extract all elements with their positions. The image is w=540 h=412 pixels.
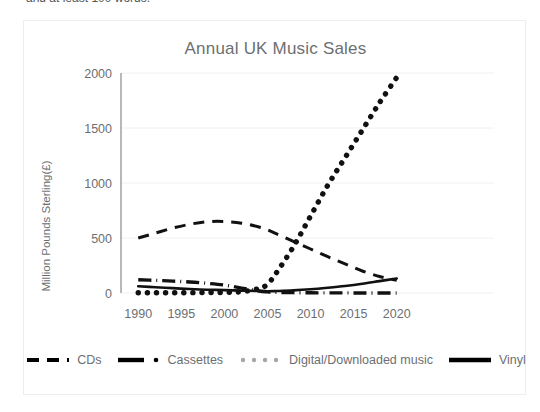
- series-line-cds: [138, 221, 397, 280]
- dashed-line-icon: [25, 355, 71, 365]
- legend-item-label: Digital/Downloaded music: [289, 353, 433, 367]
- y-tick-label: 2000: [84, 67, 112, 81]
- chart-legend: CDsCassettesDigital/Downloaded musicViny…: [24, 353, 527, 367]
- page-cut-text: and at least 100 words.: [26, 0, 150, 5]
- solid-line-icon: [447, 355, 493, 365]
- y-tick-label: 500: [91, 232, 112, 246]
- chart-plot-area: Million Pounds Sterling(£) 0500100015002…: [24, 21, 527, 396]
- legend-item-label: Cassettes: [168, 353, 224, 367]
- y-axis-title-text: Million Pounds Sterling(£): [40, 160, 52, 291]
- x-tick-label: 2010: [297, 307, 325, 321]
- line-chart-svg: Million Pounds Sterling(£) 0500100015002…: [24, 21, 527, 396]
- y-axis-title: Million Pounds Sterling(£): [40, 160, 52, 291]
- legend-item-digital-downloaded-music[interactable]: Digital/Downloaded music: [237, 353, 433, 367]
- data-series-layer: [138, 77, 397, 293]
- legend-item-label: CDs: [77, 353, 101, 367]
- legend-item-vinyl[interactable]: Vinyl: [447, 353, 526, 367]
- dotted-line-icon: [237, 355, 283, 365]
- series-line-digital-downloaded-music: [138, 77, 397, 292]
- x-tick-label: 2020: [383, 307, 411, 321]
- x-tick-label: 2015: [340, 307, 368, 321]
- x-tick-label: 1995: [167, 307, 195, 321]
- y-tick-label: 0: [105, 287, 112, 301]
- y-tick-label: 1500: [84, 122, 112, 136]
- legend-item-label: Vinyl: [499, 353, 526, 367]
- x-tick-label: 1990: [124, 307, 152, 321]
- y-tick-label: 1000: [84, 177, 112, 191]
- legend-item-cassettes[interactable]: Cassettes: [116, 353, 224, 367]
- x-tick-label: 2005: [254, 307, 282, 321]
- x-axis-tick-labels: 1990199520002005201020152020: [124, 307, 410, 321]
- x-tick-label: 2000: [211, 307, 239, 321]
- dash-dot-line-icon: [116, 355, 162, 365]
- page-cut-text-strip: and at least 100 words.: [0, 0, 540, 12]
- gridlines: [121, 73, 494, 293]
- chart-card: Annual UK Music Sales Million Pounds Ste…: [23, 20, 526, 395]
- legend-item-cds[interactable]: CDs: [25, 353, 101, 367]
- series-line-vinyl: [138, 278, 397, 291]
- y-axis-tick-labels: 0500100015002000: [84, 67, 112, 301]
